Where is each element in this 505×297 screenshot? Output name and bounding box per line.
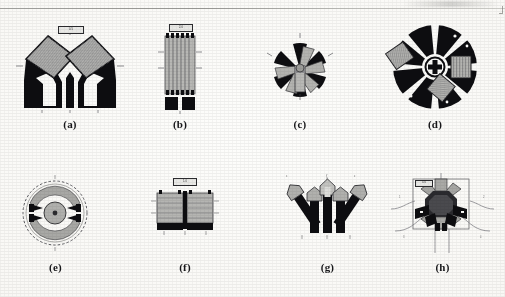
- figure-h-callout: 3.0: [415, 180, 433, 187]
- figure-f-art: 1.0: [140, 175, 230, 257]
- figure-e-drawing: [8, 173, 103, 257]
- figure-f: 1.0 (f): [140, 170, 230, 273]
- figure-a-leader-label: ·: [68, 22, 69, 25]
- figure-g-label-right: z: [354, 176, 355, 179]
- scanned-page: 0.5 · (a): [0, 0, 505, 297]
- figure-d-drawing: [385, 20, 485, 114]
- figure-c-art: [255, 22, 345, 114]
- figure-a-caption: (a): [63, 118, 76, 130]
- figure-b-callout: 2.0: [169, 24, 193, 32]
- figure-g-drawing: [280, 175, 375, 257]
- figure-h-art: 3.0 1 2 3 4: [385, 173, 500, 257]
- figure-g-label-left: x: [286, 176, 287, 179]
- figure-f-drawing: [140, 175, 230, 257]
- figure-a-callout: 0.5: [58, 26, 84, 34]
- figure-h-label-3: 3: [403, 237, 404, 240]
- figure-h-label-4: 4: [480, 237, 481, 240]
- figure-c-drawing: [255, 22, 345, 114]
- figure-a-art: 0.5 ·: [10, 22, 130, 114]
- figure-b-art: 2.0: [140, 22, 220, 114]
- page-top-rule: [0, 8, 505, 9]
- figure-a: 0.5 · (a): [10, 20, 130, 130]
- figure-b: 2.0 (b): [140, 20, 220, 130]
- figure-g-caption: (g): [321, 261, 334, 273]
- figure-h-caption: (h): [435, 261, 449, 273]
- figure-e-caption: (e): [49, 261, 62, 273]
- figure-h-label-1: 1: [399, 197, 400, 200]
- page-top-smudge: [403, 1, 499, 7]
- figure-d-caption: (d): [428, 118, 442, 130]
- figure-h-label-2: 2: [483, 197, 484, 200]
- figure-b-caption: (b): [173, 118, 187, 130]
- page-corner-mark: [499, 6, 503, 14]
- figure-a-drawing: [10, 22, 130, 114]
- figure-f-caption: (f): [179, 261, 191, 273]
- figure-b-drawing: [140, 22, 220, 114]
- figure-d: (d): [385, 18, 485, 130]
- figure-g-label-center: y: [326, 175, 327, 178]
- figure-f-callout: 1.0: [173, 178, 197, 186]
- figure-c-caption: (c): [294, 118, 307, 130]
- figure-h-drawing: [385, 173, 500, 257]
- figure-g-art: x y z: [280, 175, 375, 257]
- figure-e-art: [8, 173, 103, 257]
- figure-e: (e): [8, 168, 103, 273]
- figure-h: 3.0 1 2 3 4 (h): [385, 168, 500, 273]
- figure-d-art: [385, 20, 485, 114]
- figure-c: (c): [255, 20, 345, 130]
- figure-g: x y z (g): [280, 170, 375, 273]
